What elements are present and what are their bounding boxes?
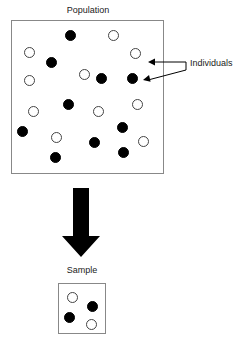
sample-box: [58, 283, 106, 334]
down-arrow-icon: [62, 188, 100, 257]
sample-individual-open-dot: [67, 292, 78, 303]
sampling-flow-arrow: [0, 0, 252, 348]
sample-individual-filled-dot: [64, 312, 75, 323]
sample-label: Sample: [36, 266, 128, 275]
sample-individual-open-dot: [86, 319, 97, 330]
sample-individual-filled-dot: [87, 301, 98, 312]
sampling-diagram: Population Individuals Sample: [0, 0, 252, 348]
